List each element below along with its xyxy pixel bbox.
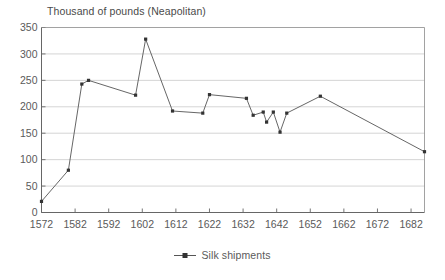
plot-frame <box>42 28 425 213</box>
plot-area: 050100150200250300350 157215821592160216… <box>0 0 445 280</box>
x-axis-tick-label: 1592 <box>97 218 121 230</box>
data-point-marker <box>134 94 137 97</box>
series-line <box>42 39 425 201</box>
data-point-marker <box>278 131 281 134</box>
y-axis-tick-label: 300 <box>20 48 38 60</box>
y-axis-tick-label: 0 <box>32 206 38 218</box>
x-axis-tick-label: 1622 <box>198 218 222 230</box>
data-point-marker <box>67 169 70 172</box>
data-point-marker <box>252 114 255 117</box>
data-point-marker <box>40 200 43 203</box>
chart-legend: Silk shipments <box>0 249 445 261</box>
x-axis-tick-label: 1672 <box>366 218 390 230</box>
data-point-marker <box>272 110 275 113</box>
data-point-marker <box>265 121 268 124</box>
x-axis-tick-label: 1682 <box>399 218 423 230</box>
data-point-marker <box>423 150 426 153</box>
line-marker-square-icon <box>174 251 196 260</box>
data-point-marker <box>319 95 322 98</box>
x-axis-tick-label: 1572 <box>30 218 54 230</box>
data-point-marker <box>87 79 90 82</box>
data-point-marker <box>285 112 288 115</box>
y-axis-tick-label: 200 <box>20 100 38 112</box>
legend-label: Silk shipments <box>201 249 270 261</box>
y-axis-tick-label: 250 <box>20 74 38 86</box>
x-axis-tick-label: 1632 <box>231 218 255 230</box>
data-point-marker <box>201 112 204 115</box>
silk-shipments-line-chart: Thousand of pounds (Neapolitan) 05010015… <box>0 0 445 280</box>
x-axis-tick-label: 1662 <box>332 218 356 230</box>
data-point-marker <box>80 82 83 85</box>
data-point-marker <box>245 97 248 100</box>
gridlines-group <box>42 54 425 186</box>
data-point-marker <box>262 110 265 113</box>
y-axis-tick-label: 50 <box>26 180 38 192</box>
x-axis-tick-label: 1582 <box>63 218 87 230</box>
x-axis-tick-label: 1602 <box>131 218 155 230</box>
data-point-marker <box>171 109 174 112</box>
y-axis-tick-label: 100 <box>20 153 38 165</box>
x-axis-ticks-group: 1572158215921602161216221632164216521662… <box>30 209 423 230</box>
x-axis-tick-label: 1642 <box>265 218 289 230</box>
series-silk-shipments <box>40 38 426 203</box>
data-point-marker <box>144 38 147 41</box>
x-axis-tick-label: 1612 <box>164 218 188 230</box>
data-point-marker <box>208 93 211 96</box>
y-axis-tick-label: 350 <box>20 21 38 33</box>
y-axis-tick-label: 150 <box>20 127 38 139</box>
x-axis-tick-label: 1652 <box>299 218 323 230</box>
